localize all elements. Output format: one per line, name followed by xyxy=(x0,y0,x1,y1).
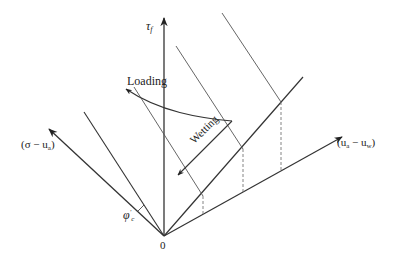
loading-label: Loading xyxy=(127,75,167,87)
net-normal-stress-label: (σ − ua) xyxy=(21,139,55,152)
suction-envelope-line xyxy=(164,77,303,236)
failure-line-3 xyxy=(222,13,281,102)
matric-suction-axis xyxy=(164,137,342,236)
phi-angle-marker xyxy=(138,205,144,211)
origin-label: 0 xyxy=(160,240,166,251)
net-normal-stress-axis xyxy=(49,129,164,236)
tau-axis-label: τf xyxy=(146,20,153,34)
failure-line-2 xyxy=(176,46,243,149)
matric-suction-label: (ua − uw) xyxy=(337,137,375,150)
phi-c-label: φ′c xyxy=(123,209,134,223)
